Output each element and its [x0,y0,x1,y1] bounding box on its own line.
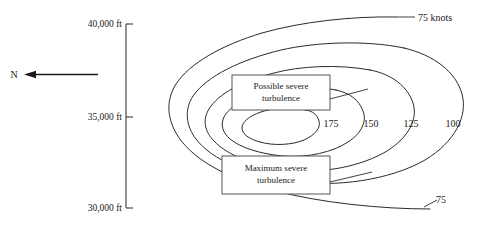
north-arrow-label: N [10,69,17,80]
altitude-label-30000: 30,000 ft [88,203,123,213]
north-arrow: N [10,69,98,80]
arrow-left-icon [24,71,36,78]
maximum-severe-turbulence-leader [330,172,372,182]
jet-stream-contour-figure: 40,000 ft 35,000 ft 30,000 ft N [0,0,477,228]
maximum-severe-turbulence-line2: turbulence [257,175,295,185]
contour-label-100: 100 [446,118,461,129]
contour-label-75: 75 [436,194,446,205]
maximum-severe-turbulence-line1: Maximum severe [245,163,308,173]
possible-severe-turbulence-line1: Possible severe [253,81,308,91]
possible-severe-turbulence-line2: turbulence [262,93,300,103]
annotation-maximum-severe-turbulence: Maximum severe turbulence [222,156,372,194]
contour-value-labels: 75 knots 175 150 125 100 75 [324,12,461,205]
contour-175 [242,108,319,144]
contour-label-175: 175 [324,118,339,129]
altitude-label-35000: 35,000 ft [88,112,123,122]
annotation-possible-severe-turbulence: Possible severe turbulence [232,75,368,110]
contour-label-75-knots: 75 knots [418,12,452,23]
contour-label-150: 150 [364,118,379,129]
altitude-label-40000: 40,000 ft [88,19,123,29]
altitude-axis: 40,000 ft 35,000 ft 30,000 ft [88,19,133,213]
contour-label-125: 125 [404,118,419,129]
possible-severe-turbulence-leader [330,89,368,99]
